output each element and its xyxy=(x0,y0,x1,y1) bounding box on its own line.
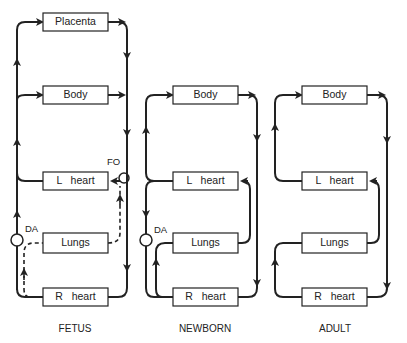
svg-text:Lungs: Lungs xyxy=(61,236,90,248)
box-lungs: Lungs xyxy=(43,233,108,253)
box-r-heart: R heart xyxy=(173,288,238,306)
box-r-heart: R heart xyxy=(43,288,108,306)
newborn-left-trunk xyxy=(146,95,173,181)
box-placenta: Placenta xyxy=(43,13,108,31)
adult-right-trunk xyxy=(367,95,387,297)
label-da: DA xyxy=(154,224,168,235)
svg-text:L heart: L heart xyxy=(315,174,353,186)
svg-text:Body: Body xyxy=(323,88,348,100)
fetus-lungs-dashed xyxy=(108,186,120,243)
newborn-lungs-lheart xyxy=(238,181,250,243)
svg-text:L heart: L heart xyxy=(186,174,224,186)
svg-text:Lungs: Lungs xyxy=(191,236,220,248)
adult-left-trunk xyxy=(275,95,302,181)
caption-newborn: NEWBORN xyxy=(179,323,231,334)
adult-rheart-lungs xyxy=(275,243,302,297)
box-lungs: Lungs xyxy=(173,233,238,253)
caption-adult: ADULT xyxy=(319,323,351,334)
box-l-heart: L heart xyxy=(173,172,238,190)
ductus-arteriosus-icon xyxy=(140,234,152,246)
box-body: Body xyxy=(302,86,367,104)
box-body: Body xyxy=(173,86,238,104)
svg-text:R heart: R heart xyxy=(185,290,225,302)
svg-text:R heart: R heart xyxy=(314,290,354,302)
svg-text:Lungs: Lungs xyxy=(320,236,349,248)
svg-text:Body: Body xyxy=(64,88,89,100)
caption-fetus: FETUS xyxy=(59,323,92,334)
box-body: Body xyxy=(43,86,108,104)
circulation-diagram: Placenta Body L heart Lungs R heart FO D… xyxy=(0,0,407,343)
panel-fetus: Placenta Body L heart Lungs R heart FO D… xyxy=(11,13,129,334)
svg-text:R heart: R heart xyxy=(55,290,95,302)
ductus-arteriosus-icon xyxy=(11,234,23,246)
newborn-right-trunk xyxy=(238,95,257,297)
fetus-rheart-out xyxy=(17,289,43,297)
panel-adult: Body L heart Lungs R heart ADULT xyxy=(275,86,387,334)
svg-text:Body: Body xyxy=(194,88,219,100)
adult-lungs-lheart xyxy=(367,181,379,243)
box-lungs: Lungs xyxy=(302,233,367,253)
label-fo: FO xyxy=(107,156,120,167)
fetus-left-trunk xyxy=(17,22,42,290)
svg-text:L heart: L heart xyxy=(56,174,94,186)
label-da: DA xyxy=(25,223,39,234)
fetus-lheart-out xyxy=(17,173,43,181)
svg-text:Placenta: Placenta xyxy=(55,15,96,27)
fetus-rheart-lungs-dashed xyxy=(24,243,43,297)
newborn-rheart-lungs xyxy=(156,243,173,297)
fetus-to-body-arrow xyxy=(17,95,42,100)
box-l-heart: L heart xyxy=(43,172,108,190)
box-r-heart: R heart xyxy=(302,288,367,306)
panel-newborn: Body L heart Lungs R heart DA NEWBORN xyxy=(140,86,257,334)
box-l-heart: L heart xyxy=(302,172,367,190)
